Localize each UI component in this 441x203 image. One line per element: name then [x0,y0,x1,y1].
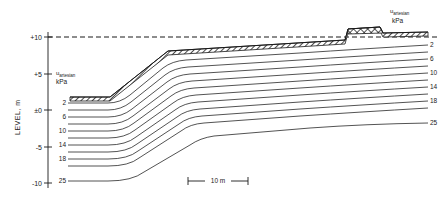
contour-line-25 [68,123,428,181]
contour-line-4 [68,52,428,110]
legend-left: uartesian kPa [56,70,76,85]
contour-line-20 [68,108,428,166]
contour-label-right-10: 10 [430,69,438,76]
contour-line-8 [68,66,428,124]
contour-label-left-2: 2 [62,99,66,106]
contour-labels-left: 2 6 10 14 18 25 [59,99,67,184]
contour-label-left-6: 6 [62,113,66,120]
contour-label-right-14: 14 [430,83,438,90]
legend-left-u-label: uartesian [56,70,76,78]
y-tick-label-zero: ±0 [34,107,42,114]
legend-left-unit: kPa [56,78,68,85]
y-tick-label-minus5: -5 [36,144,42,151]
contour-label-left-10: 10 [59,127,67,134]
y-tick-label-plus5: +5 [34,71,42,78]
contour-label-right-6: 6 [430,55,434,62]
scale-bar-label: 10 m [211,177,225,184]
cross-section-svg: +10 +5 ±0 -5 -10 [0,0,441,203]
contour-lines [68,45,428,181]
legend-right-u-label: uartesian [390,8,410,16]
contour-label-left-14: 14 [59,141,67,148]
y-tick-label-minus10: -10 [32,180,42,187]
contour-label-right-18: 18 [430,97,438,104]
scale-bar: 10 m [188,175,248,186]
legend-right-unit: kPa [392,17,404,24]
legend-right: uartesian kPa [390,8,410,24]
cross-section-figure: LEVEL, m +10 +5 ±0 -5 -10 [0,0,441,203]
contour-label-right-25: 25 [430,119,438,126]
contour-label-left-18: 18 [59,155,67,162]
contour-label-right-2: 2 [430,41,434,48]
y-axis: +10 +5 ±0 -5 -10 [30,32,52,188]
contour-line-2 [68,45,428,103]
y-axis-title: LEVEL, m [14,99,21,135]
ground-surface-hatched [70,27,428,101]
contour-label-left-25: 25 [59,177,67,184]
contour-labels-right: 2 6 10 14 18 25 [430,41,438,126]
y-tick-label-plus10: +10 [30,34,42,41]
